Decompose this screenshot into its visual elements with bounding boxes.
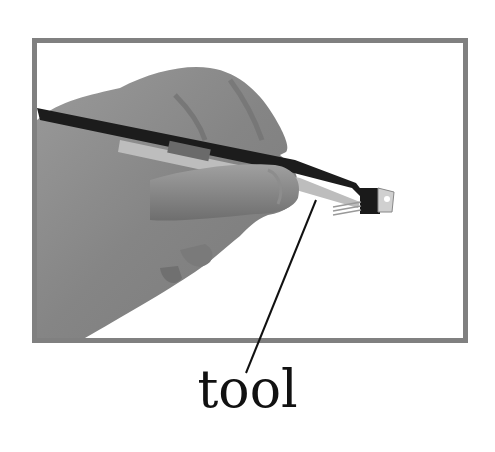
hand-with-tweezers-illustration <box>37 43 463 338</box>
vocabulary-label: tool <box>0 358 495 420</box>
picture-frame <box>32 38 468 343</box>
